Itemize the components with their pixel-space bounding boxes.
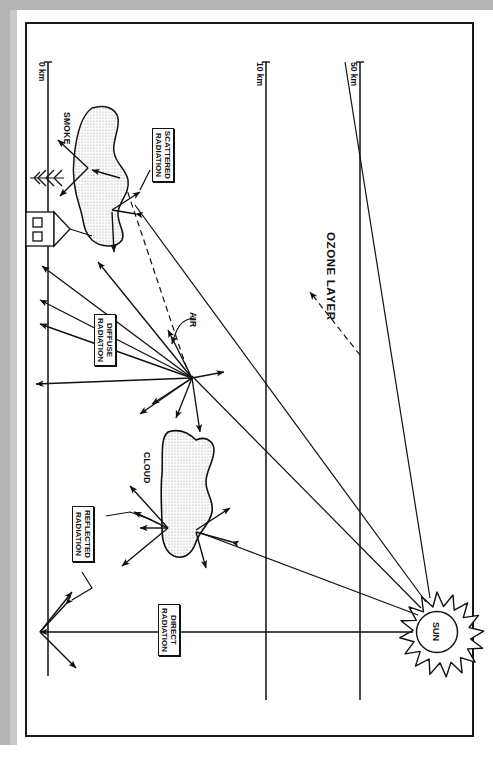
smoke-plume — [73, 106, 128, 246]
diffuse-radiation-box: DIFFUSE RADIATION — [94, 314, 116, 366]
sun-label: SUN — [431, 622, 441, 641]
direct-radiation-line1: DIRECT — [169, 615, 178, 645]
ozone-layer-label: OZONE LAYER — [325, 232, 337, 321]
dashed-absorbed-rays — [122, 175, 360, 532]
ground-reflection-arrows — [40, 592, 76, 668]
direct-radiation-line2: RADIATION — [160, 608, 169, 652]
smoke-label: SMOKE — [62, 112, 72, 145]
scanned-page: 0 km 10 km 50 km OZONE LAYER SMOKE CLOUD… — [0, 0, 493, 760]
cloud-graphic — [161, 431, 214, 558]
direct-radiation-box: DIRECT RADIATION — [158, 604, 180, 656]
diffuse-radiation-line1: DIFFUSE — [105, 323, 114, 357]
scattered-radiation-line2: RADIATION — [154, 133, 163, 177]
altitude-tick-0km: 0 km — [37, 62, 47, 81]
cloud-label: CLOUD — [142, 452, 152, 484]
tree-graphic — [30, 170, 64, 186]
altitude-tick-50km: 50 km — [349, 62, 359, 86]
scattered-radiation-box: SCATTERED RADIATION — [152, 128, 174, 182]
reflected-radiation-box: REFLECTED RADIATION — [72, 506, 94, 562]
scattered-radiation-line1: SCATTERED — [163, 131, 172, 179]
sun-graphic — [400, 592, 484, 677]
altitude-tick-10km: 10 km — [255, 62, 265, 86]
scattered-box-leader — [140, 170, 150, 190]
air-label: AIR — [188, 312, 198, 328]
diffuse-radiation-line2: RADIATION — [96, 318, 105, 362]
diagram-artwork — [0, 0, 493, 760]
reflected-radiation-line1: REFLECTED — [83, 510, 92, 558]
reflected-radiation-line2: RADIATION — [74, 512, 83, 556]
